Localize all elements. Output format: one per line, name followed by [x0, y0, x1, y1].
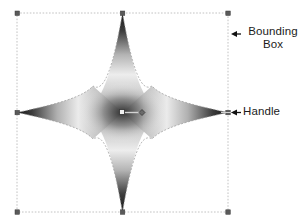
editor-canvas[interactable]: Bounding Box Handle: [0, 0, 306, 220]
annotation-bounding-box: Bounding Box: [243, 25, 303, 51]
handle-bottom-right[interactable]: [226, 210, 231, 215]
annotation-handle-line1: Handle: [243, 105, 280, 117]
annotation-bounding-box-line2: Box: [243, 38, 303, 51]
gradient-handle-square[interactable]: [120, 110, 125, 115]
handle-top-right[interactable]: [226, 11, 231, 16]
handle-middle-left[interactable]: [15, 110, 20, 115]
annotation-bounding-box-line1: Bounding: [248, 25, 297, 37]
annotation-handle: Handle: [243, 105, 280, 118]
handle-top-center[interactable]: [120, 11, 125, 16]
handle-top-left[interactable]: [15, 11, 20, 16]
annotation-arrow-handle: [221, 110, 241, 116]
annotation-arrow-bounding-box: [231, 31, 241, 37]
handle-bottom-center[interactable]: [120, 210, 125, 215]
handle-bottom-left[interactable]: [15, 210, 20, 215]
bounding-box-arrow-head: [231, 31, 237, 37]
handle-arrow-head: [231, 110, 237, 116]
